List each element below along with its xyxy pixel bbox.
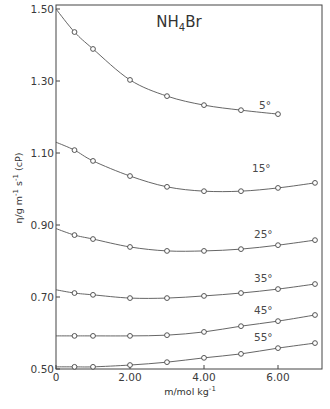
data-point-marker <box>276 319 281 324</box>
data-point-marker <box>313 282 318 287</box>
data-point-marker <box>72 30 77 35</box>
data-point-marker <box>239 324 244 329</box>
x-axis-ticks: 02.004.006.00 <box>53 365 290 383</box>
data-point-marker <box>128 296 133 301</box>
curve-label: 55° <box>254 331 273 343</box>
data-point-marker <box>313 313 318 318</box>
x-tick-label: 6.00 <box>266 371 289 383</box>
data-point-marker <box>276 186 281 191</box>
data-point-marker <box>165 184 170 189</box>
viscosity-chart: 0.500.700.901.101.301.50 02.004.006.00 5… <box>0 0 330 409</box>
x-tick-label: 0 <box>53 371 60 383</box>
y-tick-label: 1.10 <box>31 147 54 159</box>
data-point-marker <box>276 243 281 248</box>
data-point-marker <box>72 148 77 153</box>
data-point-marker <box>239 108 244 113</box>
data-point-marker <box>239 291 244 296</box>
data-point-marker <box>91 47 96 52</box>
data-point-marker <box>72 291 77 296</box>
y-tick-label: 1.50 <box>31 3 54 15</box>
curve-label: 25° <box>254 228 273 240</box>
data-point-marker <box>165 94 170 99</box>
data-point-marker <box>91 237 96 242</box>
data-point-marker <box>202 249 207 254</box>
data-point-marker <box>128 333 133 338</box>
data-point-marker <box>276 346 281 351</box>
series-25C: 25° <box>56 228 317 253</box>
y-axis-title: η/g m-1 s-1 (cP) <box>12 153 24 224</box>
data-point-marker <box>202 103 207 108</box>
x-tick-label: 2.00 <box>118 371 141 383</box>
data-point-marker <box>276 112 281 117</box>
data-point-marker <box>128 363 133 368</box>
data-point-marker <box>202 355 207 360</box>
curve-line <box>56 315 315 336</box>
data-point-marker <box>202 189 207 194</box>
data-point-marker <box>128 78 133 83</box>
data-point-marker <box>128 174 133 179</box>
data-point-marker <box>91 364 96 369</box>
data-point-marker <box>72 333 77 338</box>
data-point-marker <box>128 245 133 250</box>
series-15C: 15° <box>56 142 317 193</box>
data-point-marker <box>165 296 170 301</box>
data-point-marker <box>202 294 207 299</box>
curves: 5°15°25°35°45°55° <box>56 9 317 369</box>
curve-label: 5° <box>259 99 271 111</box>
data-point-marker <box>313 238 318 243</box>
data-point-marker <box>91 292 96 297</box>
data-point-marker <box>91 159 96 164</box>
data-point-marker <box>239 351 244 356</box>
series-35C: 35° <box>56 272 317 300</box>
data-point-marker <box>313 341 318 346</box>
curve-label: 45° <box>254 304 273 316</box>
chart-title: NH4Br <box>156 13 202 33</box>
x-tick-label: 4.00 <box>192 371 215 383</box>
curve-line <box>56 142 315 191</box>
curve-label: 35° <box>254 272 273 284</box>
data-point-marker <box>239 189 244 194</box>
data-point-marker <box>239 247 244 252</box>
data-point-marker <box>165 360 170 365</box>
curve-label: 15° <box>252 162 271 174</box>
data-point-marker <box>202 330 207 335</box>
data-point-marker <box>165 249 170 254</box>
series-45C: 45° <box>56 304 317 338</box>
x-axis-title: m/mol kg-1 <box>164 385 216 397</box>
data-point-marker <box>72 233 77 238</box>
data-point-marker <box>313 180 318 185</box>
data-point-marker <box>72 364 77 369</box>
y-tick-label: 0.90 <box>31 219 54 231</box>
y-tick-label: 1.30 <box>31 75 54 87</box>
data-point-marker <box>276 287 281 292</box>
data-point-marker <box>91 333 96 338</box>
data-point-marker <box>165 333 170 338</box>
y-tick-label: 0.50 <box>31 363 54 375</box>
y-tick-label: 0.70 <box>31 291 54 303</box>
